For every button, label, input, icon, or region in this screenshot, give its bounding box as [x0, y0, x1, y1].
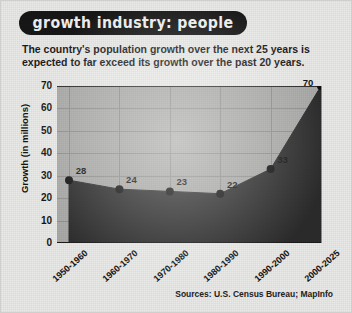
- subtitle-line-2: expected to far exceed its growth over t…: [22, 56, 322, 69]
- data-point-marker: [166, 187, 174, 195]
- title-banner: growth industry: people: [19, 11, 247, 35]
- data-point-marker: [216, 190, 224, 198]
- y-tick-label: 10: [26, 215, 52, 226]
- data-point-marker: [267, 165, 275, 173]
- y-tick-label: 40: [26, 147, 52, 158]
- chart-area: Growth (in millions) 010203040506070 282…: [1, 77, 352, 292]
- y-tick-label: 50: [26, 125, 52, 136]
- data-point-marker: [317, 86, 321, 90]
- x-tick-label: 1980-1990: [202, 248, 241, 284]
- data-value-label: 28: [76, 165, 87, 176]
- data-point-marker: [65, 176, 73, 184]
- chart-title: growth industry: people: [26, 11, 240, 35]
- y-tick-label: 0: [26, 237, 52, 248]
- source-note: Sources: U.S. Census Bureau; MapInfo: [175, 289, 333, 299]
- data-value-label: 70: [303, 77, 314, 88]
- y-tick-label: 70: [26, 80, 52, 91]
- data-value-label: 33: [277, 154, 288, 165]
- data-value-label: 23: [177, 176, 188, 187]
- gridline-vertical: [321, 86, 322, 243]
- y-tick-label: 20: [26, 192, 52, 203]
- x-tick-label: 1990-2000: [252, 248, 291, 284]
- subtitle-line-1: The country's population growth over the…: [22, 43, 322, 56]
- x-tick-label: 1970-1980: [151, 248, 190, 284]
- infographic-figure: growth industry: people The country's po…: [0, 0, 352, 313]
- axis-bottom: [57, 242, 321, 244]
- chart-subtitle: The country's population growth over the…: [22, 43, 322, 69]
- data-value-label: 24: [126, 174, 137, 185]
- y-tick-label: 30: [26, 170, 52, 181]
- x-tick-label: 2000-2025: [303, 248, 342, 284]
- data-point-marker: [115, 185, 123, 193]
- y-tick-label: 60: [26, 102, 52, 113]
- x-tick-label: 1960-1970: [101, 248, 140, 284]
- x-tick-label: 1950-1960: [51, 248, 90, 284]
- data-value-label: 22: [227, 179, 238, 190]
